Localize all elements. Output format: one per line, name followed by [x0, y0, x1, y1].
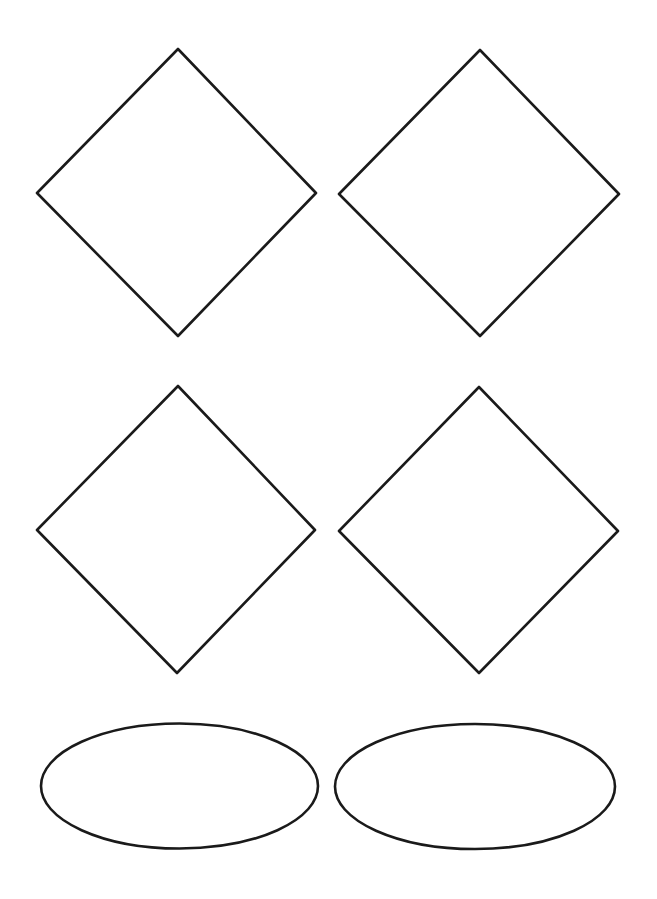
diamond-shape-middle-right — [339, 387, 618, 673]
diagram-canvas — [0, 0, 657, 899]
ellipse-shape-bottom-left — [41, 724, 318, 849]
diamond-shape-top-left — [37, 49, 316, 336]
diamond-shape-middle-left — [37, 386, 315, 673]
diamond-shape-top-right — [339, 50, 619, 336]
shapes-diagram — [0, 0, 657, 899]
ellipse-shape-bottom-right — [335, 724, 615, 849]
